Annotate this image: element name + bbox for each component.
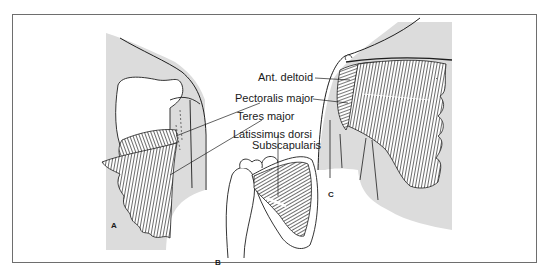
label-subscapularis: Subscapularis — [252, 139, 321, 151]
label-ant-deltoid: Ant. deltoid — [258, 71, 313, 83]
label-pectoralis-major: Pectoralis major — [235, 92, 314, 104]
label-teres-major: Teres major — [237, 110, 294, 122]
panel-label-c: C — [328, 190, 334, 199]
panel-label-a: A — [111, 221, 117, 230]
panel-label-b: B — [215, 258, 221, 267]
